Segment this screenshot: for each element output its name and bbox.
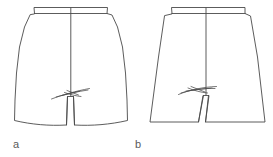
figure-b-inseam-right (206, 96, 209, 123)
illustration-canvas: a b (0, 0, 273, 157)
crotch-mark-stroke (56, 90, 88, 97)
shorts-line-drawing-svg (0, 0, 273, 157)
figure-label-b: b (135, 139, 141, 150)
figure-b-group (150, 8, 265, 123)
crotch-mark-stroke (179, 87, 217, 95)
figure-b-inseam-left (199, 96, 204, 123)
figure-label-a: a (13, 139, 19, 150)
figure-a-inseam-right (74, 97, 75, 126)
figure-a-group (15, 8, 128, 126)
figure-a-inseam-left (67, 97, 68, 126)
figure-b-crotch-marks (179, 87, 217, 95)
